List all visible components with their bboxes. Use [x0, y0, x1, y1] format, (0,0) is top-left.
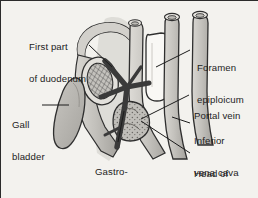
anatomy-figure: First part of duodenum Gall bladder Gast… [0, 0, 258, 198]
label-first-part-of-duodenum-line1: First part [29, 42, 86, 53]
label-gastroduodenal-artery: Gastro- duodenal artery [95, 146, 135, 198]
label-head-of-pancreas: Head of pancreas [194, 148, 234, 198]
label-foramen-epiploicum-line1: Foramen [197, 63, 244, 74]
label-first-part-of-duodenum-line2: of duodenum [29, 74, 86, 85]
label-first-part-of-duodenum: First part of duodenum [29, 21, 86, 106]
label-head-of-pancreas-line1: Head of [194, 169, 234, 180]
label-gall-bladder-line2: bladder [12, 152, 45, 163]
label-gall-bladder-line1: Gall [12, 120, 45, 131]
label-gastroduodenal-artery-line1: Gastro- [95, 167, 135, 178]
label-gall-bladder: Gall bladder [12, 99, 45, 184]
label-inferior-vena-cava-line1: Inferior [194, 136, 239, 147]
